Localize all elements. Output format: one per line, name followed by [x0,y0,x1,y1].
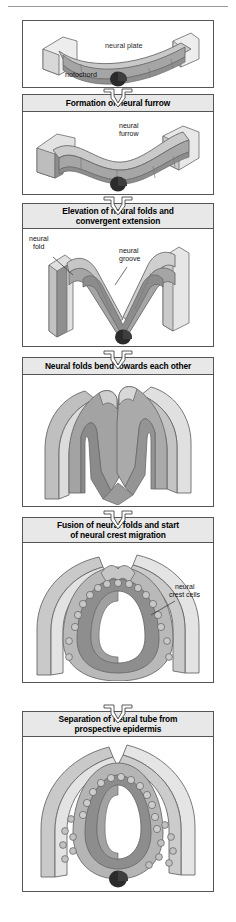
neural-folds-bending-illustration [23,375,213,505]
stage-4: Neural folds bend towards each other [22,357,214,507]
stage-3: Elevation of neural folds and convergent… [22,203,214,347]
top-divider-rule [8,6,228,7]
label-neural-groove-line1: neural [119,247,138,255]
stage-5-header-line2: of neural crest migration [70,530,166,540]
label-neural-crest-cells-line2: crest cells [169,591,200,599]
label-neural-crest-cells-line1: neural [175,583,194,591]
label-neural-plate: neural plate [105,42,143,50]
down-arrow-icon [100,350,136,370]
down-arrow-icon [100,88,136,108]
flow-arrow-4 [100,510,136,530]
stage-6-header-line2: prospective epidermis [75,724,162,734]
stage-6: Separation of neural tube from prospecti… [22,711,214,892]
flow-arrow-5 [100,704,136,724]
label-neural-groove-line2: groove [119,255,140,263]
label-notochord: notochord [65,71,97,79]
stage-1-figure: neural plate notochord [22,20,214,88]
stage-1: neural plate notochord [22,20,214,88]
stage-5: Fusion of neural folds and start of neur… [22,517,214,683]
label-neural-fold-line1: neural [29,235,48,243]
neural-folds-elevation-illustration [23,229,213,345]
neural-plate-illustration [23,21,213,87]
label-neural-furrow-line1: neural [119,122,138,130]
flow-arrow-3 [100,350,136,370]
down-arrow-icon [100,510,136,530]
diagram-sheet: neural plate notochord Formation of neur… [0,0,236,922]
stage-2-figure: neural furrow [22,112,214,195]
stage-5-figure: neural crest cells [22,543,214,683]
stage-2: Formation of neural furrow [22,94,214,195]
stage-3-header-line2: convergent extension [76,216,161,226]
stage-6-figure [22,737,214,892]
down-arrow-icon [100,196,136,216]
flow-arrow-2 [100,196,136,216]
down-arrow-icon [100,704,136,724]
label-neural-fold-line2: fold [33,243,44,251]
label-neural-furrow-line2: furrow [119,130,138,138]
flow-arrow-1 [100,88,136,108]
neural-furrow-illustration [23,112,213,193]
stage-4-figure [22,375,214,507]
stage-3-figure: neural fold neural groove [22,229,214,347]
neural-tube-fusion-illustration [23,543,213,681]
neural-tube-separation-illustration [23,737,213,890]
